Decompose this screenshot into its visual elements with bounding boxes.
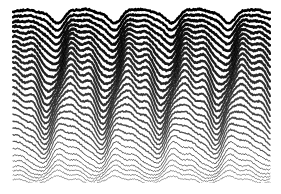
wave-plot-figure: Stacked ridgeline wave plot bbox=[0, 0, 281, 194]
ridgeline-wave-canvas bbox=[0, 0, 281, 194]
